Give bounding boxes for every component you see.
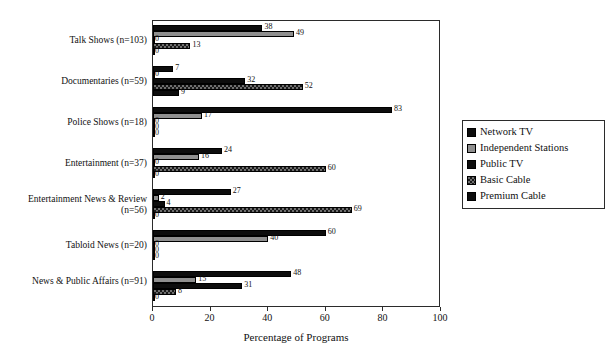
plot-inner: 3849013070325298317000241606002724690604… — [153, 21, 439, 306]
x-tick — [440, 307, 441, 311]
x-tick — [152, 307, 153, 311]
legend-swatch-icon — [467, 144, 476, 153]
category-label: Talk Shows (n=103) — [0, 35, 152, 46]
x-tick-label: 80 — [377, 312, 387, 323]
x-tick — [325, 307, 326, 311]
x-tick — [382, 307, 383, 311]
legend-item-premium: Premium Cable — [467, 188, 600, 204]
legend-label: Network TV — [480, 126, 533, 138]
legend-item-network: Network TV — [467, 124, 600, 140]
bar-group: 7032529 — [153, 66, 439, 96]
bar-row: 9 — [153, 90, 439, 96]
x-axis: 020406080100 Percentage of Programs — [152, 307, 440, 347]
x-tick-label: 60 — [320, 312, 330, 323]
bar-premium — [153, 90, 179, 96]
bar-group: 24160600 — [153, 148, 439, 178]
bar-value-label: 0 — [155, 210, 159, 220]
legend-label: Basic Cable — [480, 174, 530, 186]
bar-value-label: 0 — [155, 128, 159, 138]
bar-value-label: 0 — [155, 292, 159, 302]
category-label: Entertainment News & Review (n=56) — [0, 194, 152, 216]
bar-group: 2724690 — [153, 189, 439, 219]
category-label: Entertainment (n=37) — [0, 158, 152, 169]
x-tick — [267, 307, 268, 311]
legend-label: Premium Cable — [480, 190, 546, 202]
category-label: Tabloid News (n=20) — [0, 240, 152, 251]
legend-item-indep: Independent Stations — [467, 140, 600, 156]
legend-swatch-icon — [467, 176, 476, 185]
category-label: News & Public Affairs (n=91) — [0, 276, 152, 287]
chart-title — [95, 0, 395, 5]
legend-item-basic: Basic Cable — [467, 172, 600, 188]
x-tick-label: 40 — [262, 312, 272, 323]
bar-value-label: 0 — [155, 251, 159, 261]
legend-swatch-icon — [467, 160, 476, 169]
x-tick-label: 0 — [150, 312, 155, 323]
bar-group: 38490130 — [153, 25, 439, 55]
x-tick-label: 100 — [433, 312, 448, 323]
category-label: Documentaries (n=59) — [0, 76, 152, 87]
bar-row: 0 — [153, 49, 439, 55]
legend-label: Public TV — [480, 158, 523, 170]
legend-item-public: Public TV — [467, 156, 600, 172]
x-tick-label: 20 — [205, 312, 215, 323]
bar-value-label: 0 — [155, 169, 159, 179]
bar-row: 0 — [153, 295, 439, 301]
bar-row: 0 — [153, 131, 439, 137]
x-tick — [210, 307, 211, 311]
x-axis-title: Percentage of Programs — [152, 331, 440, 343]
bar-row: 0 — [153, 254, 439, 260]
legend-label: Independent Stations — [480, 142, 568, 154]
legend-swatch-icon — [467, 128, 476, 137]
bar-chart: Genre 3849013070325298317000241606002724… — [0, 0, 609, 347]
bar-row: 0 — [153, 172, 439, 178]
legend: Network TVIndependent StationsPublic TVB… — [462, 120, 605, 209]
category-label: Police Shows (n=18) — [0, 117, 152, 128]
bar-value-label: 0 — [155, 46, 159, 56]
bar-row: 0 — [153, 213, 439, 219]
bar-group: 8317000 — [153, 107, 439, 137]
plot-area: 3849013070325298317000241606002724690604… — [152, 20, 440, 307]
legend-swatch-icon — [467, 192, 476, 201]
bar-group: 6040000 — [153, 230, 439, 260]
bar-group: 48153180 — [153, 271, 439, 301]
bar-value-label: 9 — [181, 87, 185, 97]
